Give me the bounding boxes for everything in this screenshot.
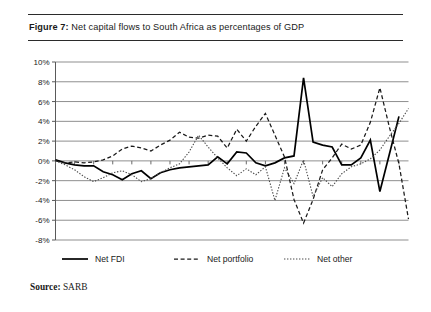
- y-axis-tick-label: -4%: [35, 196, 49, 205]
- legend-label-net-portfolio: Net portfolio: [207, 254, 254, 264]
- y-axis-tick-label: -6%: [35, 216, 49, 225]
- line-chart: 10%8%6%4%2%0%-2%-4%-6%-8%: [0, 50, 431, 250]
- caption-rule-bottom: [28, 40, 403, 41]
- chart-plot-area: 10%8%6%4%2%0%-2%-4%-6%-8%: [0, 50, 431, 250]
- series-line-net-other: [56, 108, 409, 200]
- series-line-net-portfolio: [56, 88, 409, 223]
- y-axis-tick-label: 4%: [38, 117, 50, 126]
- y-axis-tick-label: -2%: [35, 177, 49, 186]
- figure-caption: Figure 7: Net capital flows to South Afr…: [29, 20, 304, 34]
- chart-legend: Net FDINet portfolioNet other: [0, 248, 431, 270]
- y-axis-tick-label: 8%: [38, 78, 50, 87]
- figure-number: Figure 7:: [29, 22, 69, 32]
- source-note: Source: SARB: [30, 282, 87, 292]
- legend-svg: Net FDINet portfolioNet other: [0, 248, 431, 270]
- legend-label-net-other: Net other: [317, 254, 352, 264]
- y-axis-tick-label: 2%: [38, 137, 50, 146]
- source-value: SARB: [63, 282, 88, 292]
- page-title: Net capital flows to South Africa as per…: [71, 22, 304, 32]
- legend-label-net-fdi: Net FDI: [95, 254, 125, 264]
- series-line-net-fdi: [56, 78, 399, 192]
- y-axis-tick-label: -8%: [35, 236, 49, 245]
- source-label: Source:: [30, 282, 61, 292]
- caption-rule-top: [28, 14, 403, 15]
- figure-container: Figure 7: Net capital flows to South Afr…: [0, 0, 431, 312]
- y-axis-tick-label: 10%: [33, 58, 49, 67]
- y-axis-tick-label: 6%: [38, 98, 50, 107]
- y-axis-tick-label: 0%: [38, 157, 50, 166]
